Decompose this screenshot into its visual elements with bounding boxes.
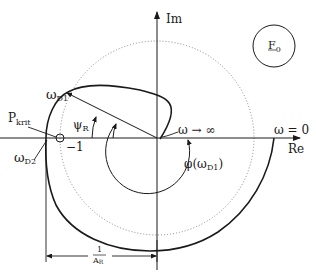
minus-one-label: −1 [66,140,84,154]
nyquist-curve [46,85,274,251]
psi-r-label: ψR [73,118,89,133]
omega-d1-label: ωD1 [46,87,68,103]
phi-label: φ(ωD1) [184,157,223,172]
imaginary-axis-label: Im [166,12,183,26]
pkrit-pointer [28,127,56,137]
gain-denominator: AR [92,256,104,265]
f0-label: F0 [268,39,281,54]
psi-r-arc-1 [92,117,96,138]
omega-d2-label: ωD2 [14,150,36,166]
nyquist-diagram: Im Re F0 ωD1 Pkrit ψR −1 ωD2 ω → ∞ ω = 0… [0,0,316,272]
real-axis-label: Re [288,142,304,156]
pkrit-label: Pkrit [8,111,31,127]
omega-zero-label: ω = 0 [274,123,309,137]
omega-inf-label: ω → ∞ [178,123,215,137]
gain-numerator: 1 [97,245,102,254]
